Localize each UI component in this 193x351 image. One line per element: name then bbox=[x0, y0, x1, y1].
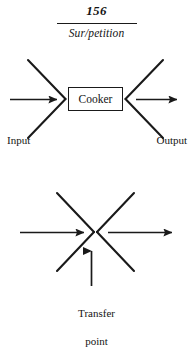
transfer-point-label: Transfer point bbox=[0, 292, 193, 351]
cooker-box-label: Cooker bbox=[79, 93, 113, 106]
transfer-point-label-line-2: point bbox=[0, 334, 193, 348]
transfer-point-label-line-1: Transfer bbox=[0, 306, 193, 320]
input-label: Input bbox=[7, 134, 30, 147]
cooker-box: Cooker bbox=[68, 87, 123, 111]
output-label: Output bbox=[156, 134, 187, 147]
